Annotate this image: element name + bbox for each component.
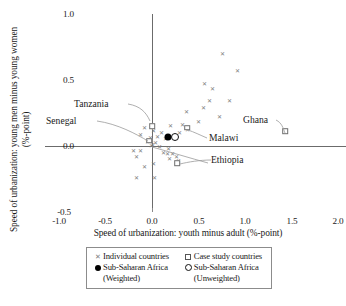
data-point-square xyxy=(146,138,152,144)
legend-item-case-study-countries: Case study countries xyxy=(183,251,266,262)
data-point-x: ✕ xyxy=(184,109,189,115)
data-point-x: ✕ xyxy=(142,125,147,131)
y-tick-label-1: 1.0 xyxy=(40,9,74,19)
scatter-chart-figure: Speed of urbanization: young men minus y… xyxy=(0,0,346,306)
square-marker-icon xyxy=(183,251,194,262)
data-point-x: ✕ xyxy=(134,175,139,181)
data-point-square xyxy=(174,160,180,166)
x-tick-label-6: 1.5 xyxy=(272,216,312,226)
legend-item-ssa-unweighted: Sub-Saharan Africa xyxy=(183,262,266,273)
data-point-x: ✕ xyxy=(217,114,222,120)
data-point-x: ✕ xyxy=(201,105,206,111)
data-point-x: ✕ xyxy=(152,175,157,181)
data-point-open-circle xyxy=(171,133,179,141)
filled-circle-marker-icon xyxy=(92,262,103,273)
data-point-x: ✕ xyxy=(149,143,154,149)
legend-label-unweighted-sub: (Unweighted) xyxy=(183,273,240,284)
x-tick-label-7: 2.0 xyxy=(318,216,346,226)
legend-label-weighted-sub: (Weighted) xyxy=(92,273,140,284)
legend-item-ssa-weighted: Sub-Saharan Africa xyxy=(92,262,183,273)
data-point-x: ✕ xyxy=(235,68,240,74)
legend-label-case-study: Case study countries xyxy=(194,251,262,262)
data-point-x: ✕ xyxy=(168,123,173,129)
y-tick-label-2: 0.5 xyxy=(40,75,74,85)
x-axis-tickmark-zero xyxy=(152,208,153,212)
data-point-x: ✕ xyxy=(138,148,143,154)
annotation-tanzania: Tanzania xyxy=(74,98,108,109)
data-point-x: ✕ xyxy=(220,51,225,57)
data-point-x: ✕ xyxy=(151,161,156,167)
data-point-x: ✕ xyxy=(227,98,232,104)
horizontal-axis-line xyxy=(45,146,346,147)
x-tick-label-3: 0.0 xyxy=(132,216,172,226)
y-tick-label-3: 0.0 xyxy=(40,141,74,151)
data-point-x: ✕ xyxy=(167,156,172,162)
data-point-x: ✕ xyxy=(138,132,143,138)
x-tick-label-4: 0.5 xyxy=(179,216,219,226)
chart-legend: ✕ Individual countries Case study countr… xyxy=(86,247,272,289)
data-point-filled-circle xyxy=(164,133,171,140)
annotation-senegal: Senegal xyxy=(46,115,76,126)
data-point-x: ✕ xyxy=(207,98,212,104)
data-point-x: ✕ xyxy=(210,86,215,92)
legend-label-ssa-weighted: Sub-Saharan Africa xyxy=(103,262,168,273)
legend-row-3: (Weighted) (Unweighted) xyxy=(92,273,266,284)
open-circle-marker-icon xyxy=(183,262,194,273)
x-tick-label-2: -0.5 xyxy=(85,216,125,226)
cross-marker-icon: ✕ xyxy=(92,251,103,262)
data-point-x: ✕ xyxy=(196,119,201,125)
annotation-ghana: Ghana xyxy=(243,114,268,125)
data-point-square xyxy=(185,125,191,131)
legend-label-individual: Individual countries xyxy=(103,251,169,262)
data-point-square xyxy=(282,129,288,135)
data-point-x: ✕ xyxy=(134,154,139,160)
legend-row-2: Sub-Saharan Africa Sub-Saharan Africa xyxy=(92,262,266,273)
x-tick-label-5: 1.0 xyxy=(225,216,265,226)
vertical-axis-line xyxy=(152,14,153,212)
legend-sub-weighted: (Weighted) xyxy=(92,273,183,284)
legend-sub-unweighted: (Unweighted) xyxy=(183,273,266,284)
x-tick-label-1: -1.0 xyxy=(39,216,79,226)
annotation-malawi: Malawi xyxy=(209,132,238,143)
legend-row-1: ✕ Individual countries Case study countr… xyxy=(92,251,266,262)
data-point-square xyxy=(149,123,155,129)
annotation-ethiopia: Ethiopia xyxy=(211,154,244,165)
legend-label-ssa-unweighted: Sub-Saharan Africa xyxy=(194,262,259,273)
data-point-x: ✕ xyxy=(202,81,207,87)
data-point-x: ✕ xyxy=(142,164,147,170)
legend-item-individual-countries: ✕ Individual countries xyxy=(92,251,183,262)
